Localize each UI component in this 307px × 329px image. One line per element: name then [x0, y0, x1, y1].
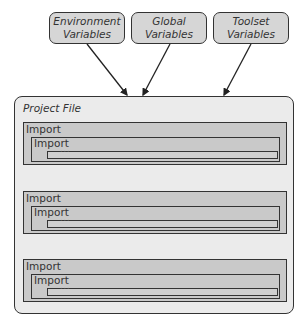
ellipsis: ...: [60, 214, 71, 223]
ellipsis: ...: [60, 145, 71, 154]
import-group: Import Import ...: [23, 191, 287, 234]
environment-variables-box: Environment Variables: [49, 12, 125, 44]
nested-import: Import ...: [31, 274, 280, 299]
import-group: Import Import ...: [23, 259, 287, 302]
import-label: Import: [26, 123, 61, 135]
nested-import: Import ...: [31, 137, 280, 162]
var-line2: Variables: [132, 28, 206, 41]
nested-import: Import ...: [31, 206, 280, 231]
project-file-title: Project File: [23, 102, 81, 114]
import-label: Import: [26, 260, 61, 272]
var-line2: Variables: [50, 28, 124, 41]
global-variables-box: Global Variables: [131, 12, 207, 44]
var-line1: Global: [132, 15, 206, 28]
nested-ellipsis-box: ...: [47, 220, 278, 228]
var-line1: Toolset: [214, 15, 288, 28]
var-line1: Environment: [50, 15, 124, 28]
toolset-variables-box: Toolset Variables: [213, 12, 289, 44]
var-line2: Variables: [214, 28, 288, 41]
project-file-box: Project File Import Import ... Import Im…: [14, 96, 294, 314]
ellipsis: ...: [60, 282, 71, 291]
import-label: Import: [26, 192, 61, 204]
import-group: Import Import ...: [23, 122, 287, 165]
nested-ellipsis-box: ...: [47, 151, 278, 159]
nested-ellipsis-box: ...: [47, 288, 278, 296]
